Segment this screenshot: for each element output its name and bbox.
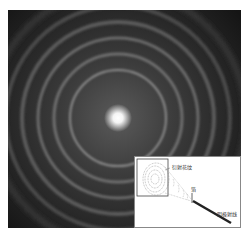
- central-beam-spot: [104, 104, 132, 132]
- screen: [137, 159, 168, 196]
- diffracted-cone: [165, 167, 191, 201]
- label-foil: 箔: [191, 187, 196, 192]
- label-beam: 阴极射线: [217, 212, 237, 217]
- diagram-inset: 衍射花纹 箔 阴极射线: [134, 156, 241, 228]
- label-diffraction-pattern: 衍射花纹: [172, 165, 192, 170]
